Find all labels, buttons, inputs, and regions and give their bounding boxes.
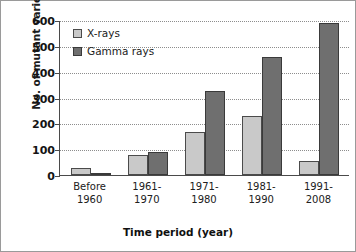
x-axis-tick-label-line: 1960	[61, 194, 118, 207]
x-axis-tick-label: 1961-1970	[118, 181, 175, 206]
bar-xrays	[71, 168, 91, 175]
y-axis-tick-label: 400	[15, 67, 55, 78]
legend-label-gamma-rays: Gamma rays	[87, 45, 154, 57]
legend-swatch-xrays-icon	[73, 29, 82, 38]
x-axis-tick-label-line: 2008	[290, 194, 347, 207]
x-axis-tick-label: 1971-1980	[175, 181, 232, 206]
bar-gamma-rays	[91, 173, 111, 175]
x-axis-tick-label-line: 1980	[175, 194, 232, 207]
y-axis-tick-label: 0	[15, 171, 55, 182]
x-axis-tick-label-line: Before	[61, 181, 118, 194]
y-axis-tick-label: 100	[15, 145, 55, 156]
x-axis-tick-label: Before1960	[61, 181, 118, 206]
bar-xrays	[128, 155, 148, 175]
x-axis-tick-label-line: 1970	[118, 194, 175, 207]
y-axis-tick-labels: 0100200300400500600	[15, 15, 55, 177]
x-axis-tick-label: 1981-1990	[233, 181, 290, 206]
y-axis-tick-label: 200	[15, 119, 55, 130]
bar-chart-figure: No. of mutant variety 010020030040050060…	[0, 0, 356, 252]
bar-group	[290, 21, 347, 175]
x-axis-tick-labels: Before19601961-19701971-19801981-1990199…	[59, 181, 349, 206]
x-axis-tick-label-line: 1961-	[118, 181, 175, 194]
legend-item-xrays: X-rays	[73, 27, 154, 39]
bar-xrays	[242, 116, 262, 175]
bar-xrays	[185, 132, 205, 175]
legend-item-gamma-rays: Gamma rays	[73, 45, 154, 57]
x-axis-title: Time period (year)	[1, 226, 355, 238]
bar-xrays	[299, 161, 319, 175]
bar-gamma-rays	[148, 152, 168, 175]
x-axis-tick-label-line: 1981-	[233, 181, 290, 194]
bar-gamma-rays	[319, 23, 339, 175]
bar-gamma-rays	[262, 57, 282, 175]
y-axis-tickmark	[55, 176, 60, 177]
x-axis-tick-label-line: 1971-	[175, 181, 232, 194]
bar-gamma-rays	[205, 91, 225, 175]
y-axis-tick-label: 300	[15, 93, 55, 104]
x-axis-tick-label-line: 1991-	[290, 181, 347, 194]
bar-group	[176, 21, 233, 175]
chart-legend: X-rays Gamma rays	[73, 27, 154, 57]
bar-group	[233, 21, 290, 175]
x-axis-tick-label-line: 1990	[233, 194, 290, 207]
x-axis-tick-label: 1991-2008	[290, 181, 347, 206]
y-axis-tick-label: 600	[15, 16, 55, 27]
legend-swatch-gamma-rays-icon	[73, 47, 82, 56]
legend-label-xrays: X-rays	[87, 27, 120, 39]
y-axis-tick-label: 500	[15, 41, 55, 52]
